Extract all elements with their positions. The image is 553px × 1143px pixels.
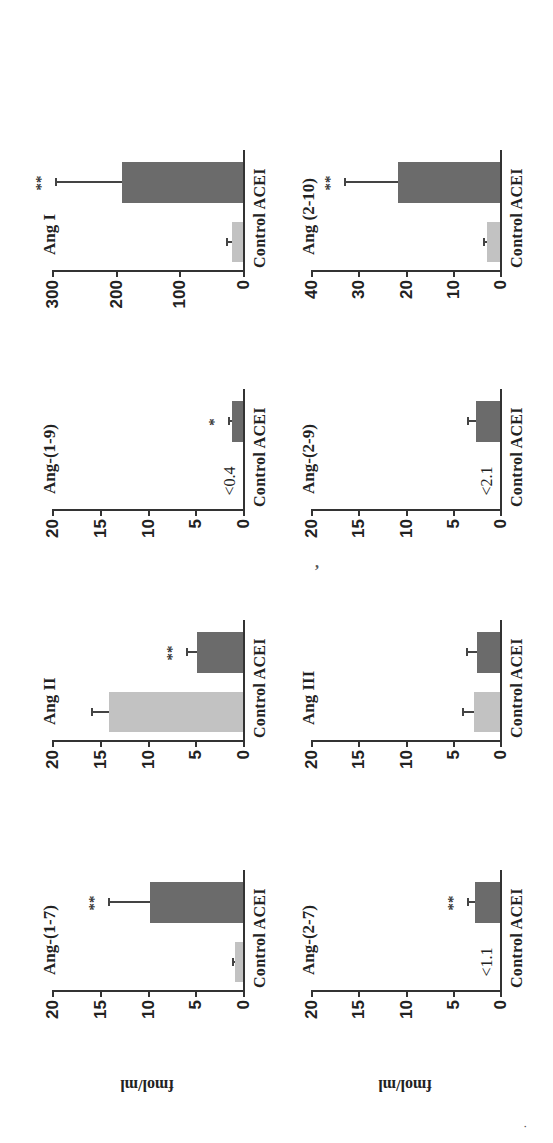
y-axis-label: fmol/ml: [120, 1076, 173, 1094]
y-tick-label: 0: [235, 280, 253, 320]
y-tick: [52, 511, 54, 516]
y-tick: [500, 742, 502, 747]
y-tick-label: 0: [235, 519, 253, 559]
error-cap: [467, 899, 469, 907]
y-tick: [243, 511, 245, 516]
y-tick-label: 10: [398, 519, 416, 559]
significance-marker: **: [86, 888, 103, 918]
y-tick-label: 0: [235, 750, 253, 790]
x-axis: [500, 389, 502, 511]
y-tick-label: 5: [187, 1000, 205, 1040]
x-axis: [243, 620, 245, 742]
stray-mark: ,: [315, 554, 319, 572]
y-tick-label: 15: [350, 750, 368, 790]
category-labels: Control ACEI: [251, 407, 269, 507]
y-tick: [52, 272, 54, 277]
panel-title: Ang-(2-9): [299, 424, 319, 494]
y-tick-label: 15: [92, 750, 110, 790]
y-tick-label: 300: [44, 280, 62, 320]
y-tick: [358, 511, 360, 516]
panel-title: Ang-(2-7): [299, 905, 319, 975]
significance-marker: **: [445, 888, 462, 918]
y-tick-label: 15: [92, 1000, 110, 1040]
acei-bar: [475, 882, 500, 923]
detection-limit-note: <0.4: [221, 461, 239, 501]
y-tick: [148, 511, 150, 516]
y-tick-label: 15: [350, 1000, 368, 1040]
significance-marker: **: [33, 168, 50, 198]
acei-bar: [122, 162, 243, 203]
y-tick-label: 20: [44, 750, 62, 790]
y-tick: [453, 992, 455, 997]
panel-title: Ang I: [40, 214, 60, 255]
detection-limit-note: <1.1: [478, 942, 496, 982]
y-tick: [100, 511, 102, 516]
y-tick-label: 40: [303, 280, 321, 320]
y-tick: [311, 272, 313, 277]
panel-title: Ang-(1-9): [40, 424, 60, 494]
y-tick-label: 200: [108, 280, 126, 320]
y-tick: [406, 742, 408, 747]
y-tick: [100, 992, 102, 997]
y-tick: [358, 742, 360, 747]
acei-bar: [232, 401, 243, 442]
panel-title: Ang-(1-7): [40, 905, 60, 975]
acei-bar: [398, 162, 500, 203]
detection-limit-note: <2.1: [478, 461, 496, 501]
y-tick: [453, 272, 455, 277]
y-tick-label: 20: [398, 280, 416, 320]
x-axis: [243, 870, 245, 992]
error-cap: [467, 418, 469, 426]
y-tick: [453, 742, 455, 747]
significance-marker: **: [164, 638, 181, 668]
control-bar: [235, 942, 243, 982]
error-cap: [483, 238, 485, 246]
y-tick-label: 5: [445, 750, 463, 790]
y-tick-label: 5: [187, 750, 205, 790]
y-tick: [500, 511, 502, 516]
category-labels: Control ACEI: [251, 888, 269, 988]
y-tick: [52, 992, 54, 997]
error-cap: [226, 238, 228, 246]
category-labels: Control ACEI: [508, 168, 526, 268]
category-labels: Control ACEI: [508, 407, 526, 507]
y-tick: [116, 272, 118, 277]
y-tick: [100, 742, 102, 747]
y-tick-label: 0: [492, 280, 510, 320]
y-tick-label: 100: [171, 280, 189, 320]
y-tick: [311, 742, 313, 747]
y-tick: [179, 272, 181, 277]
y-tick-label: 10: [140, 519, 158, 559]
acei-bar: [477, 632, 500, 673]
y-tick: [52, 742, 54, 747]
y-tick-label: 20: [303, 750, 321, 790]
control-bar: [232, 222, 243, 262]
y-tick-label: 10: [398, 1000, 416, 1040]
y-tick-label: 0: [492, 750, 510, 790]
acei-bar: [476, 401, 500, 442]
panel-title: Ang II: [40, 677, 60, 725]
y-tick-label: 5: [187, 519, 205, 559]
error-cap: [462, 708, 464, 716]
category-labels: Control ACEI: [251, 638, 269, 738]
control-bar: [487, 222, 500, 262]
y-tick: [148, 742, 150, 747]
x-axis: [500, 870, 502, 992]
y-tick: [500, 272, 502, 277]
error-cap: [466, 649, 468, 657]
error-cap: [91, 708, 93, 716]
x-axis: [500, 620, 502, 742]
y-tick: [195, 742, 197, 747]
x-axis: [243, 150, 245, 272]
y-tick: [406, 511, 408, 516]
x-axis: [500, 150, 502, 272]
panel-title: Ang III: [299, 671, 319, 725]
stray-dot: .: [515, 1125, 530, 1128]
acei-bar: [150, 882, 243, 923]
y-axis: [52, 270, 244, 272]
control-bar: [474, 692, 500, 732]
error-cap: [55, 179, 57, 187]
y-tick: [311, 992, 313, 997]
y-tick-label: 10: [445, 280, 463, 320]
y-tick-label: 5: [445, 1000, 463, 1040]
